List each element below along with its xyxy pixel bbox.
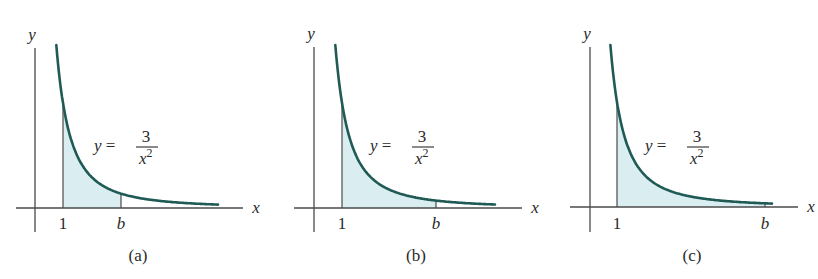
y-axis-label: y [305,24,315,43]
y-axis-label: y [26,25,36,44]
panel-caption: (c) [683,246,702,265]
panel-a: yx1b(a)y =3x2 [16,25,260,265]
equation-lhs: y = [643,136,666,155]
equation-denominator: x2 [138,146,153,168]
tick-label-b: b [761,214,770,233]
equation-denominator: x2 [689,146,704,168]
equation-numerator: 3 [693,127,702,146]
x-axis-label: x [530,198,539,217]
equation-lhs: y = [92,136,115,155]
panel-caption: (a) [129,246,148,265]
tick-label-1: 1 [613,214,622,233]
shaded-area [63,103,121,208]
panel-caption: (b) [406,246,426,265]
tick-label-b: b [432,214,441,233]
equation-numerator: 3 [142,127,151,146]
panel-c: yx1b(c)y =3x2 [570,24,815,265]
equation-label: y =3x2 [643,127,709,168]
x-axis-label: x [806,197,815,216]
equation-label: y =3x2 [92,127,158,168]
tick-label-1: 1 [59,214,68,233]
figure-canvas: yx1b(a)y =3x2yx1b(b)y =3x2yx1b(c)y =3x2 [0,0,818,279]
tick-label-b: b [117,214,126,233]
panel-b: yx1b(b)y =3x2 [294,24,539,265]
y-axis-label: y [581,24,591,43]
equation-denominator: x2 [414,146,429,168]
tick-label-1: 1 [338,214,347,233]
equation-lhs: y = [368,136,391,155]
equation-label: y =3x2 [368,127,434,168]
equation-numerator: 3 [418,127,427,146]
x-axis-label: x [251,198,260,217]
